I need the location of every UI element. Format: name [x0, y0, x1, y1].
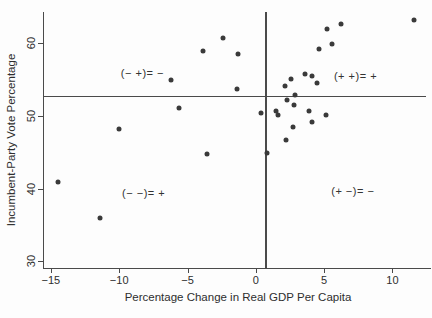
x-tick-label: 10: [386, 274, 398, 286]
data-point: [204, 151, 209, 156]
x-tick-mark: [119, 268, 120, 273]
data-point: [221, 35, 226, 40]
data-point: [117, 127, 122, 132]
data-point: [275, 112, 280, 117]
y-tick-mark: [38, 43, 43, 44]
y-axis-title: Incumbent-Party Vote Percentage: [5, 54, 17, 227]
quadrant-label: (+ +)= +: [334, 70, 377, 82]
data-point: [412, 18, 417, 23]
quadrant-label: (− −)= +: [122, 187, 165, 199]
y-tick-mark: [38, 189, 43, 190]
vertical-reference-line: [265, 12, 266, 268]
data-point: [282, 84, 287, 89]
quadrant-label: (+ −)= −: [331, 185, 374, 197]
data-point: [55, 179, 60, 184]
y-tick-label: 60: [25, 36, 37, 48]
data-point: [234, 87, 239, 92]
x-tick-label: 5: [321, 274, 327, 286]
data-point: [236, 52, 241, 57]
data-point: [338, 21, 343, 26]
y-tick-mark: [38, 261, 43, 262]
data-point: [169, 77, 174, 82]
y-axis-line: [43, 12, 44, 269]
data-point: [98, 216, 103, 221]
data-point: [200, 49, 205, 54]
x-axis-line: [43, 268, 431, 269]
data-point: [292, 102, 297, 107]
data-point: [316, 46, 321, 51]
x-tick-mark: [392, 268, 393, 273]
data-point: [285, 97, 290, 102]
quadrant-label: (− +)= −: [121, 67, 164, 79]
data-point: [330, 42, 335, 47]
y-tick-mark: [38, 116, 43, 117]
data-point: [259, 111, 264, 116]
y-tick-label: 50: [25, 109, 37, 121]
x-tick-mark: [51, 268, 52, 273]
x-tick-mark: [256, 268, 257, 273]
data-point: [303, 72, 308, 77]
data-point: [315, 80, 320, 85]
data-point: [290, 125, 295, 130]
x-tick-label: −15: [41, 274, 60, 286]
x-tick-label: −5: [181, 274, 194, 286]
x-tick-label: −10: [110, 274, 129, 286]
horizontal-reference-line: [44, 96, 426, 97]
y-tick-label: 40: [25, 182, 37, 194]
x-axis-title: Percentage Change in Real GDP Per Capita: [44, 291, 432, 303]
data-point: [323, 112, 328, 117]
data-point: [309, 120, 314, 125]
data-point: [307, 108, 312, 113]
data-point: [309, 73, 314, 78]
data-point: [324, 26, 329, 31]
x-tick-mark: [324, 268, 325, 273]
data-point: [283, 137, 288, 142]
data-point: [289, 77, 294, 82]
x-tick-mark: [188, 268, 189, 273]
x-tick-label: 0: [253, 274, 259, 286]
y-tick-label: 30: [25, 255, 37, 267]
data-point: [177, 106, 182, 111]
scatter-plot-figure: −15−10−5051030405060 (− +)= −(+ +)= +(− …: [0, 0, 432, 318]
data-point: [264, 150, 269, 155]
data-point: [293, 93, 298, 98]
